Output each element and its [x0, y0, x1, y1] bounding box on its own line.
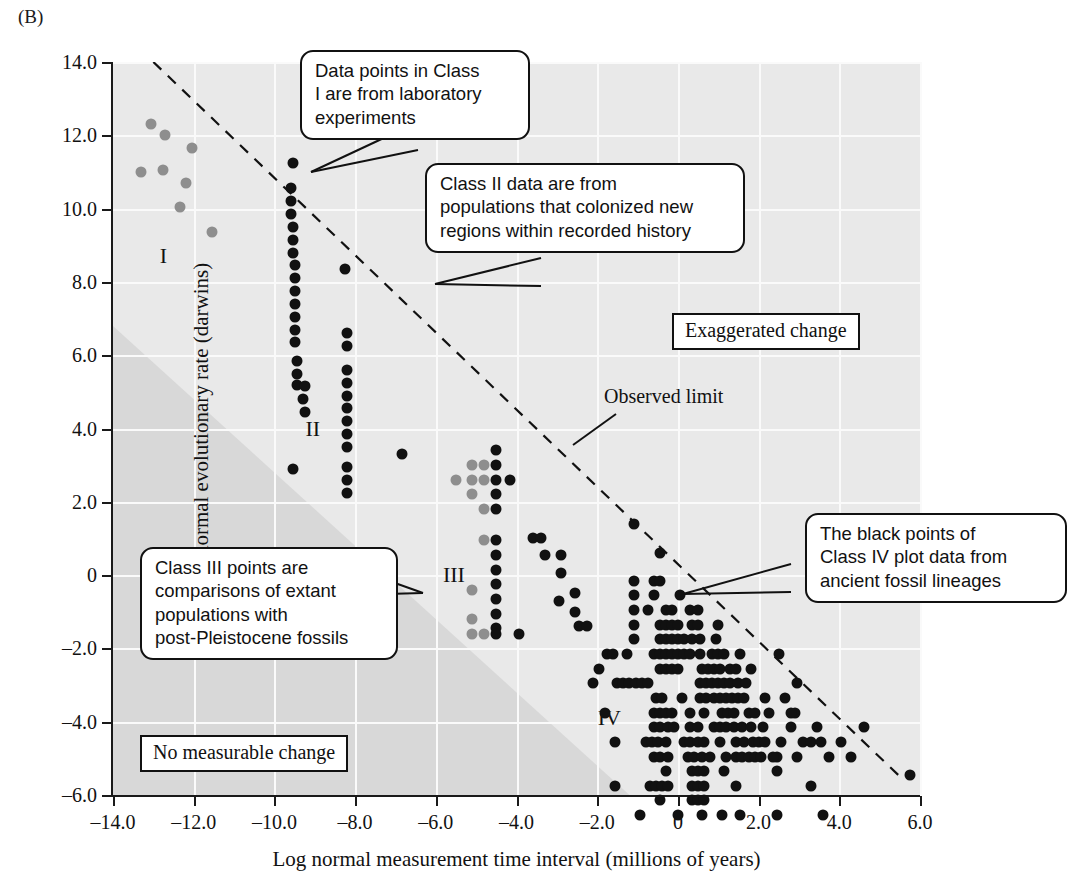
panel-letter: (B) — [18, 6, 43, 28]
data-point — [206, 227, 217, 238]
data-point — [824, 751, 835, 762]
y-tick-label: 0 — [87, 564, 97, 587]
data-point — [555, 549, 566, 560]
y-tick — [102, 795, 112, 797]
data-point — [608, 648, 619, 659]
data-point — [779, 692, 790, 703]
data-point — [806, 780, 817, 791]
data-point — [610, 736, 621, 747]
data-point — [674, 590, 685, 601]
data-point — [289, 298, 300, 309]
callout-class-i: Data points in Class I are from laborato… — [300, 50, 530, 140]
data-point — [285, 209, 296, 220]
data-point — [467, 584, 478, 595]
data-point — [491, 549, 502, 560]
data-point — [505, 474, 516, 485]
data-point — [297, 394, 308, 405]
data-point — [666, 604, 677, 615]
data-point — [610, 780, 621, 791]
data-point — [146, 119, 157, 130]
data-point — [342, 474, 353, 485]
x-tick-label: –14.0 — [91, 811, 136, 834]
x-tick-label: –6.0 — [418, 811, 453, 834]
data-point — [342, 441, 353, 452]
data-point — [745, 663, 756, 674]
x-axis-title: Log normal measurement time interval (mi… — [272, 847, 760, 872]
data-point — [771, 766, 782, 777]
data-point — [342, 461, 353, 472]
data-point — [715, 736, 726, 747]
data-point — [479, 535, 490, 546]
data-point — [676, 692, 687, 703]
data-point — [186, 143, 197, 154]
data-point — [699, 795, 710, 806]
data-point — [628, 590, 639, 601]
data-point — [775, 736, 786, 747]
y-tick-label: 8.0 — [72, 270, 97, 293]
data-point — [818, 810, 829, 821]
class-iii-label: III — [443, 562, 465, 588]
data-point — [491, 504, 502, 515]
data-point — [812, 722, 823, 733]
data-point — [654, 575, 665, 586]
data-point — [479, 628, 490, 639]
data-point — [342, 428, 353, 439]
x-tick-label: 2.0 — [746, 811, 771, 834]
x-tick-label: –12.0 — [171, 811, 216, 834]
data-point — [668, 722, 679, 733]
data-point — [731, 663, 742, 674]
data-point — [491, 593, 502, 604]
y-tick — [102, 722, 112, 724]
data-point — [628, 604, 639, 615]
data-point — [570, 606, 581, 617]
data-point — [588, 678, 599, 689]
x-tick-label: 6.0 — [908, 811, 933, 834]
data-point — [396, 449, 407, 460]
data-point — [555, 568, 566, 579]
data-point — [757, 722, 768, 733]
data-point — [467, 474, 478, 485]
y-tick — [102, 648, 112, 650]
y-tick-label: 2.0 — [72, 490, 97, 513]
y-tick — [102, 209, 112, 211]
no-measurable-change-label: No measurable change — [140, 735, 348, 772]
data-point — [628, 575, 639, 586]
data-point — [291, 368, 302, 379]
data-point — [749, 707, 760, 718]
data-point — [342, 416, 353, 427]
class-iv-label: IV — [598, 705, 621, 731]
data-point — [729, 707, 740, 718]
data-point — [662, 780, 673, 791]
data-point — [553, 595, 564, 606]
data-point — [699, 707, 710, 718]
data-point — [791, 751, 802, 762]
x-tick-label: –2.0 — [580, 811, 615, 834]
data-point — [491, 460, 502, 471]
data-point — [662, 751, 673, 762]
data-point — [763, 707, 774, 718]
data-point — [735, 810, 746, 821]
data-point — [174, 201, 185, 212]
data-point — [491, 628, 502, 639]
y-tick — [102, 135, 112, 137]
callout-class-iv: The black points of Class IV plot data f… — [805, 513, 1067, 603]
data-point — [289, 286, 300, 297]
data-point — [299, 381, 310, 392]
x-tick — [274, 796, 276, 806]
data-point — [491, 489, 502, 500]
y-tick — [102, 575, 112, 577]
data-point — [695, 634, 706, 645]
data-point — [539, 549, 550, 560]
class-ii-label: II — [305, 416, 320, 442]
gridline-horizontal — [113, 429, 920, 431]
data-point — [755, 751, 766, 762]
data-point — [467, 489, 478, 500]
data-point — [287, 463, 298, 474]
data-point — [285, 196, 296, 207]
y-tick-label: –2.0 — [62, 637, 97, 660]
data-point — [535, 533, 546, 544]
data-point — [467, 460, 478, 471]
y-tick — [102, 355, 112, 357]
data-point — [672, 663, 683, 674]
data-point — [628, 634, 639, 645]
